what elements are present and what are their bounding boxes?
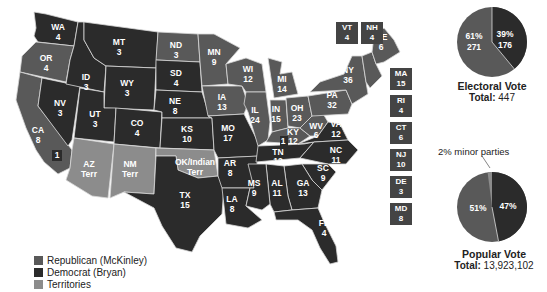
svg-text:OH: OH [291,103,304,113]
svg-text:UT: UT [89,109,101,119]
map-legend: Republican (McKinley) Democrat (Bryan) T… [34,254,147,290]
box-state-nj: NJ10 [390,149,412,171]
svg-text:AZ: AZ [83,159,94,169]
legend-swatch-democrat [34,268,43,277]
svg-text:Terr: Terr [187,167,204,177]
svg-text:4: 4 [174,78,179,88]
svg-text:LA: LA [226,194,237,204]
minor-parties-note: 2% minor parties [438,146,509,157]
svg-text:1: 1 [55,150,60,160]
svg-text:4: 4 [44,63,49,73]
legend-swatch-territory [34,280,43,289]
svg-text:8: 8 [36,135,41,145]
svg-text:IA: IA [218,92,227,102]
svg-text:24: 24 [250,115,260,125]
svg-text:15: 15 [180,200,190,210]
box-state-vt: VT4 [336,22,358,44]
svg-text:SC: SC [317,163,329,173]
svg-text:14: 14 [277,84,287,94]
svg-text:39%: 39% [496,29,513,39]
svg-text:KS: KS [181,124,193,134]
svg-text:4: 4 [135,128,140,138]
svg-text:9: 9 [212,57,217,67]
total-label: Total: [454,260,480,271]
legend-item-republican: Republican (McKinley) [34,254,147,266]
box-state-de: DE3 [390,176,412,198]
svg-text:11: 11 [273,188,282,198]
box-state-nh: NH4 [361,22,383,44]
popular-vote-caption: Popular Vote Total: 13,923,102 [446,248,542,271]
svg-text:IN: IN [272,104,281,114]
svg-text:FL: FL [319,218,329,228]
legend-label: Republican (McKinley) [47,255,147,266]
svg-text:3: 3 [125,88,130,98]
svg-text:11: 11 [332,155,341,165]
popular-vote-title: Popular Vote [446,248,542,260]
svg-text:13: 13 [217,102,227,112]
svg-text:CO: CO [131,118,144,128]
svg-text:3: 3 [117,47,122,57]
svg-text:AR: AR [224,158,236,168]
svg-text:IL: IL [251,105,259,115]
total-label: Total: [469,92,495,103]
svg-text:NV: NV [54,98,66,108]
svg-text:NE: NE [169,96,181,106]
svg-text:12: 12 [288,136,298,146]
svg-text:3: 3 [58,108,63,118]
svg-text:3: 3 [93,119,98,129]
popular-total-value: 13,923,102 [484,260,534,271]
svg-text:PA: PA [326,90,337,100]
svg-text:MI: MI [277,74,286,84]
svg-text:ID: ID [82,72,91,82]
svg-text:WA: WA [51,22,65,32]
svg-text:17: 17 [223,133,233,143]
svg-text:WY: WY [120,78,134,88]
svg-text:8: 8 [230,204,235,214]
svg-text:OR: OR [40,53,53,63]
svg-text:VA: VA [330,119,341,129]
svg-text:3: 3 [174,50,179,60]
svg-text:NC: NC [330,145,342,155]
svg-text:MO: MO [221,123,235,133]
svg-text:13: 13 [298,188,308,198]
svg-text:AL: AL [271,178,282,188]
svg-text:WI: WI [243,64,253,74]
state-ne [154,90,210,118]
svg-text:47%: 47% [499,201,516,211]
legend-label: Democrat (Bryan) [47,267,126,278]
svg-text:4: 4 [322,228,327,238]
electoral-vote-pie: 61% 271 39% 176 [457,7,527,77]
svg-text:9: 9 [252,188,257,198]
state-wy [104,66,156,110]
electoral-vote-title: Electoral Vote [452,80,532,92]
state-fl [274,208,338,264]
svg-text:NM: NM [123,159,136,169]
svg-text:176: 176 [498,40,512,50]
svg-text:61%: 61% [465,31,482,41]
svg-text:271: 271 [467,42,481,52]
svg-text:9: 9 [321,173,326,183]
svg-text:23: 23 [292,113,302,123]
electoral-total-value: 447 [498,92,515,103]
svg-text:SD: SD [170,68,182,78]
svg-text:TX: TX [180,190,191,200]
svg-text:3: 3 [84,82,89,92]
svg-text:MS: MS [248,178,261,188]
svg-text:32: 32 [327,100,337,110]
svg-text:10: 10 [182,134,192,144]
svg-text:15: 15 [271,114,281,124]
popular-vote-pie: 51% 47% [457,172,527,242]
svg-text:NY: NY [342,65,354,75]
svg-text:4: 4 [56,32,61,42]
svg-text:GA: GA [297,178,310,188]
svg-text:CA: CA [32,125,44,135]
minor-parties-leader [482,156,490,168]
legend-item-democrat: Democrat (Bryan) [34,266,147,278]
svg-text:8: 8 [228,168,233,178]
svg-text:51%: 51% [469,203,486,213]
box-state-ct: CT6 [390,122,412,144]
svg-text:OK/Indian: OK/Indian [175,157,215,167]
box-state-ri: RI4 [390,95,412,117]
